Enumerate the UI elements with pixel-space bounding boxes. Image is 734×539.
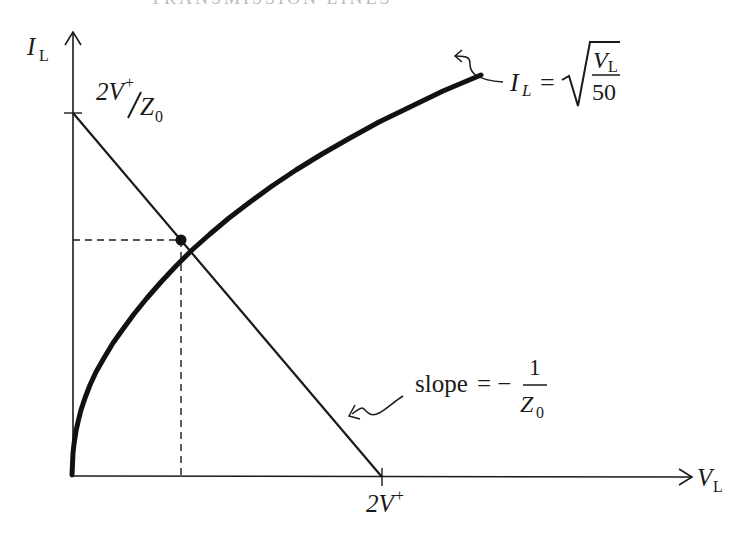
slope-pointer-arrow — [349, 396, 403, 419]
load-line — [73, 113, 382, 477]
svg-text:1: 1 — [529, 355, 541, 380]
svg-text:slope: slope — [415, 370, 468, 397]
svg-text:2V: 2V — [96, 78, 127, 105]
load-curve — [72, 75, 481, 475]
y-intercept-label: 2V + Z 0 — [96, 74, 163, 125]
curve-equation: I L = V L 50 — [509, 42, 620, 106]
svg-text:= −: = − — [477, 370, 511, 397]
svg-text:+: + — [125, 74, 134, 91]
y-axis-label: I L — [26, 33, 49, 64]
svg-text:=: = — [540, 68, 555, 97]
svg-text:L: L — [521, 81, 531, 100]
slope-label: slope = − 1 Z 0 — [415, 355, 547, 421]
svg-text:Z: Z — [520, 391, 534, 417]
load-line-diagram: TRANSMISSION LINES — [0, 0, 734, 539]
svg-text:I: I — [26, 33, 37, 60]
x-axis-label: V L — [697, 464, 723, 495]
svg-text:Z: Z — [140, 93, 155, 120]
svg-text:L: L — [713, 478, 723, 495]
svg-text:L: L — [39, 47, 49, 64]
curve-pointer-arrow — [455, 50, 503, 82]
svg-text:50: 50 — [592, 79, 616, 105]
svg-text:0: 0 — [536, 404, 544, 421]
svg-text:L: L — [608, 58, 618, 75]
svg-text:+: + — [395, 487, 404, 504]
diagram-canvas: I L V L 2V + Z 0 2V + I L = V L — [0, 0, 734, 539]
svg-text:2V: 2V — [366, 490, 397, 517]
x-intercept-label: 2V + — [366, 487, 404, 517]
svg-text:I: I — [509, 68, 520, 97]
operating-point — [176, 235, 187, 246]
svg-text:0: 0 — [155, 108, 163, 125]
